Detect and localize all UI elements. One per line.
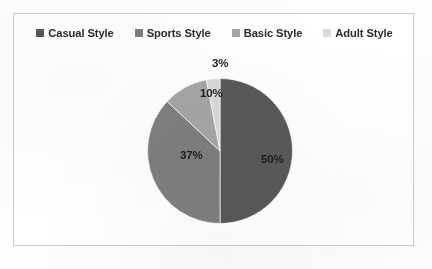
- pie-data-label-casual-style: 50%: [261, 153, 284, 165]
- pie-chart-graphic: [147, 78, 293, 224]
- pie-data-label-sports-style: 37%: [180, 149, 203, 161]
- scanned-page-surface: Casual Style Sports Style Basic Style Ad…: [0, 0, 432, 269]
- pie-slice-group: [147, 78, 292, 223]
- pie-data-label-basic-style: 10%: [200, 87, 223, 99]
- pie-data-label-adult-style: 3%: [212, 57, 228, 69]
- pie-chart-figure: Casual Style Sports Style Basic Style Ad…: [13, 13, 414, 246]
- pie-slice-casual-style[interactable]: [220, 79, 293, 224]
- pie-plot-area: 50% 37% 10% 3%: [14, 14, 415, 247]
